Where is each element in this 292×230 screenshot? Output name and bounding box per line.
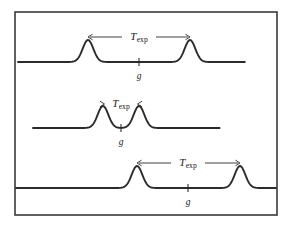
trace-2: gTexp — [33, 97, 220, 147]
figure-canvas: gTexpgTexpgTexp — [0, 0, 292, 230]
signal-trace — [16, 166, 276, 188]
texp-label: Texp — [130, 30, 148, 44]
signal-trace — [18, 40, 245, 62]
figure-container: gTexpgTexpgTexp — [0, 0, 292, 230]
texp-subscript: exp — [137, 35, 148, 44]
g-label: g — [119, 137, 124, 147]
texp-subscript: exp — [186, 161, 197, 170]
g-label: g — [186, 197, 191, 207]
g-label: g — [137, 71, 142, 81]
trace-3: gTexp — [16, 156, 276, 207]
texp-label: Texp — [179, 156, 197, 170]
texp-subscript: exp — [119, 102, 130, 111]
traces-group: gTexpgTexpgTexp — [16, 30, 276, 207]
trace-1: gTexp — [18, 30, 245, 81]
texp-label: Texp — [112, 97, 130, 111]
